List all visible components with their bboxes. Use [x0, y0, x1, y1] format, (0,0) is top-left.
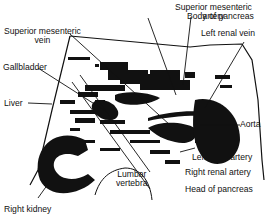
right-kidney-shape — [38, 136, 95, 194]
label-superior-mesenteric-vein: Superior mesenteric vein — [4, 27, 81, 45]
smv-shape — [115, 92, 160, 105]
label-liver: Liver — [4, 99, 23, 108]
label-line: vein — [4, 36, 81, 45]
label-left-renal-artery: Left renal artery — [192, 153, 252, 162]
label-body-of-pancreas: Body of pancreas — [187, 12, 254, 21]
label-head-of-pancreas: Head of pancreas — [185, 185, 253, 194]
label-right-renal-artery: Right renal artery — [185, 168, 251, 177]
label-lumbar-vertebra: Lumbar vertebra — [116, 170, 148, 188]
label-right-kidney: Right kidney — [4, 205, 51, 214]
label-line: vertebra — [116, 179, 148, 188]
label-gallbladder: Gallbladder — [3, 63, 47, 72]
label-left-renal-vein: Left renal vein — [201, 29, 255, 38]
label-aorta: Aorta — [240, 120, 261, 129]
